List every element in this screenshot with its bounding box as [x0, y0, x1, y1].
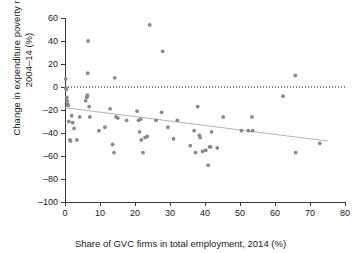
y-tick-label: –40 [43, 128, 58, 138]
y-tick-label: 20 [48, 59, 58, 69]
data-point [206, 163, 210, 167]
data-point [78, 115, 82, 119]
data-point [210, 130, 214, 134]
x-tick-label: 40 [200, 208, 210, 218]
data-point [139, 138, 143, 142]
data-point [75, 138, 79, 142]
axis-frame [65, 18, 345, 202]
data-point [69, 139, 73, 143]
data-points-group [64, 23, 322, 167]
plot-canvas: 6040200–20–40–60–80–10001020304050607080 [0, 0, 361, 253]
x-tick-label: 50 [235, 208, 245, 218]
data-point [64, 77, 68, 81]
data-point [250, 115, 254, 119]
data-point [166, 125, 170, 129]
data-point [194, 151, 198, 155]
data-point [294, 151, 298, 155]
data-point [87, 105, 91, 109]
y-tick-label: –100 [38, 197, 58, 207]
data-point [293, 74, 297, 78]
data-point [86, 39, 90, 43]
axes-group: 6040200–20–40–60–80–10001020304050607080 [38, 13, 350, 218]
data-point [281, 94, 285, 98]
data-point [67, 120, 71, 124]
data-point [88, 115, 92, 119]
data-point [240, 129, 244, 133]
data-point [161, 49, 165, 53]
data-point [135, 109, 139, 113]
x-tick-label: 10 [95, 208, 105, 218]
data-point [188, 144, 192, 148]
data-point [125, 118, 129, 122]
data-point [97, 129, 101, 133]
y-tick-label: 40 [48, 36, 58, 46]
data-point [145, 135, 149, 139]
data-point [251, 129, 255, 133]
data-point [71, 121, 75, 125]
data-point [221, 115, 225, 119]
data-point [154, 118, 158, 122]
y-tick-label: 0 [53, 82, 58, 92]
data-point [65, 95, 69, 99]
data-point [86, 71, 90, 75]
data-point [84, 99, 88, 103]
data-point [66, 104, 70, 108]
data-point [209, 145, 213, 149]
data-point [160, 110, 164, 114]
data-point [198, 136, 202, 140]
trend-line [65, 108, 328, 141]
y-axis-label: Change in expenditure poverty rate, 2004… [11, 0, 35, 145]
data-point [196, 105, 200, 109]
y-axis-label-wrapper: Change in expenditure poverty rate, 2004… [11, 0, 35, 145]
x-tick-label: 60 [270, 208, 280, 218]
x-tick-label: 70 [305, 208, 315, 218]
data-point [108, 107, 112, 111]
data-point [148, 23, 152, 27]
data-point [65, 87, 69, 91]
x-tick-label: 30 [165, 208, 175, 218]
x-axis-label: Share of GVC firms in total employment, … [0, 238, 361, 249]
data-point [247, 129, 251, 133]
data-point [141, 151, 145, 155]
y-tick-label: 60 [48, 13, 58, 23]
x-tick-label: 0 [62, 208, 67, 218]
data-point [204, 148, 208, 152]
data-point [72, 126, 76, 130]
data-point [65, 99, 69, 103]
data-point [111, 143, 115, 147]
data-point [116, 116, 120, 120]
data-point [112, 151, 116, 155]
trend-line-path [65, 108, 328, 141]
data-point [192, 129, 196, 133]
y-tick-label: –60 [43, 151, 58, 161]
data-point [175, 118, 179, 122]
data-point [172, 137, 176, 141]
data-point [113, 76, 117, 80]
data-point [139, 117, 143, 121]
x-tick-label: 20 [130, 208, 140, 218]
x-tick-label: 80 [340, 208, 350, 218]
data-point [215, 146, 219, 150]
data-point [103, 125, 107, 129]
data-point [318, 141, 322, 145]
scatter-chart-figure: 6040200–20–40–60–80–10001020304050607080… [0, 0, 361, 253]
y-tick-label: –80 [43, 174, 58, 184]
y-tick-label: –20 [43, 105, 58, 115]
data-point [70, 114, 74, 118]
data-point [86, 93, 90, 97]
data-point [138, 130, 142, 134]
